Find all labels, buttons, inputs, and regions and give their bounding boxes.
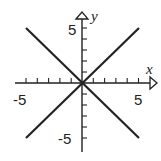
y-min-label: -5 <box>58 130 71 147</box>
coordinate-plane: y x 5 -5 -5 5 <box>0 0 161 161</box>
y-max-label: 5 <box>68 21 76 38</box>
y-axis-arrow-icon <box>76 12 88 19</box>
x-max-label: 5 <box>134 91 142 108</box>
x-axis-label: x <box>145 61 153 77</box>
x-axis-arrow-icon <box>150 77 157 89</box>
y-axis-label: y <box>89 8 98 24</box>
x-min-label: -5 <box>13 91 26 108</box>
